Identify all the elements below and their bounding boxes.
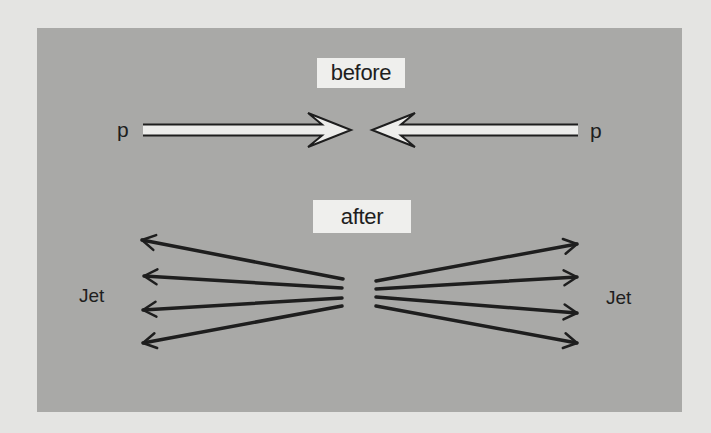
jet-left-label: Jet: [79, 286, 104, 305]
incoming-beams: [143, 113, 578, 147]
jet-right-arrow-2: [376, 270, 577, 289]
jet-right-arrow-3: [376, 297, 577, 319]
incoming-proton-right-arrow: [372, 113, 578, 147]
before-label: before: [317, 58, 405, 88]
after-label: after: [313, 200, 411, 233]
jet-left-arrow-4: [143, 306, 342, 348]
jet-left-arrow-3: [143, 298, 342, 317]
proton-left-label: p: [117, 119, 129, 140]
before-label-text: before: [331, 60, 392, 86]
jet-right-arrow-1: [376, 239, 577, 281]
jet-right-label: Jet: [606, 288, 631, 307]
outgoing-jets: [142, 235, 577, 348]
incoming-proton-left-arrow: [143, 113, 351, 147]
jet-left-arrow-1: [142, 235, 343, 279]
proton-right-label: p: [590, 120, 602, 141]
after-label-text: after: [341, 204, 384, 230]
